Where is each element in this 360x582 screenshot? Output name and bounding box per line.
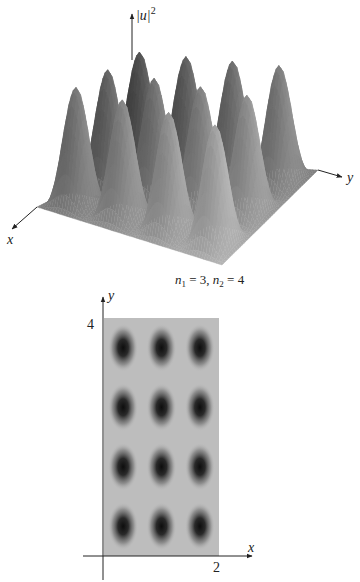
- surface-mesh: [37, 52, 318, 265]
- density-y-label: y: [106, 288, 115, 303]
- density-blob: [108, 383, 138, 431]
- density-blob: [185, 443, 215, 491]
- density-x-tick-2: 2: [213, 560, 220, 575]
- density-blob: [185, 383, 215, 431]
- density-blob: [185, 324, 215, 372]
- x-axis-label: x: [6, 232, 14, 247]
- density-blob: [147, 324, 177, 372]
- density-blob: [108, 324, 138, 372]
- density-blob: [185, 502, 215, 550]
- density-y-tick-4: 4: [87, 317, 94, 332]
- surface-caption: n1 = 3, n2 = 4: [175, 272, 245, 289]
- density-blob: [108, 502, 138, 550]
- density-blob: [147, 502, 177, 550]
- density-plot: x y 2 4: [83, 288, 255, 580]
- density-x-label: x: [247, 540, 255, 555]
- x-axis: [12, 207, 37, 229]
- y-axis-label: y: [345, 170, 354, 185]
- z-axis-label: |u|2: [136, 5, 156, 23]
- figure-canvas: |u|2 x y n1 = 3, n2 = 4 x y 2 4: [0, 0, 360, 582]
- density-blob: [147, 443, 177, 491]
- density-blob: [108, 443, 138, 491]
- surface-plot: |u|2 x y n1 = 3, n2 = 4: [6, 5, 354, 289]
- y-axis: [318, 170, 342, 177]
- density-blob: [147, 383, 177, 431]
